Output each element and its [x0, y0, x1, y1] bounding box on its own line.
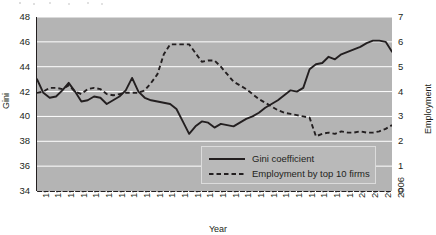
- y-tick-left-38: 38: [6, 136, 30, 146]
- y-axis-title-right: Employment: [423, 77, 433, 141]
- legend-swatch-dashed-line: [208, 169, 246, 179]
- y-tick-left-48: 48: [6, 12, 30, 22]
- y-tick-right-3: 3: [398, 111, 422, 121]
- chart-legend: Gini coefficient Employment by top 10 fi…: [201, 146, 376, 184]
- scan-noise-artifact: [14, 1, 106, 6]
- y-tick-left-42: 42: [6, 87, 30, 97]
- legend-item-gini-coefficient: Gini coefficient: [208, 151, 369, 166]
- legend-label-employment-top-10-firms: Employment by top 10 firms: [252, 168, 370, 179]
- y-tick-right-2: 2: [398, 136, 422, 146]
- y-tick-left-34: 34: [6, 186, 30, 196]
- y-tick-right-1: 1: [398, 161, 422, 171]
- series-line-employment-top-10-firms: [37, 44, 392, 136]
- y-tick-right-5: 5: [398, 62, 422, 72]
- x-axis-title: Year: [0, 224, 436, 234]
- series-line-gini-coefficient: [37, 41, 392, 134]
- y-tick-left-36: 36: [6, 161, 30, 171]
- y-tick-right-7: 7: [398, 12, 422, 22]
- x-axis-tick-marks: [36, 191, 393, 196]
- gridlines: [37, 17, 392, 166]
- chart-figure: Gini Employment Year 3436384042444648 01…: [0, 0, 436, 235]
- legend-item-employment-top-10-firms: Employment by top 10 firms: [208, 166, 369, 181]
- y-tick-left-46: 46: [6, 37, 30, 47]
- x-tick-2006: 2006: [396, 177, 406, 198]
- legend-swatch-solid-line: [208, 154, 246, 164]
- y-tick-right-6: 6: [398, 37, 422, 47]
- legend-label-gini-coefficient: Gini coefficient: [252, 153, 314, 164]
- y-tick-left-44: 44: [6, 62, 30, 72]
- y-tick-left-40: 40: [6, 111, 30, 121]
- y-tick-right-4: 4: [398, 87, 422, 97]
